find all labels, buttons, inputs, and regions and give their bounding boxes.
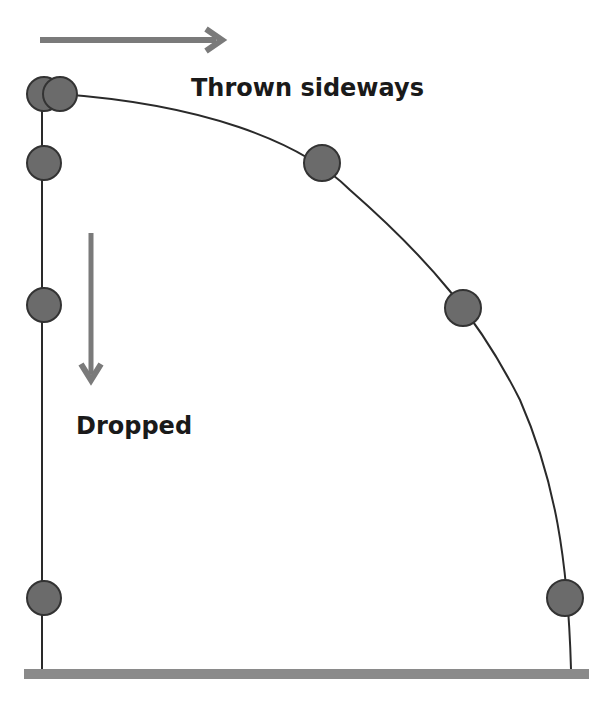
ground — [24, 669, 589, 679]
ball — [304, 145, 340, 181]
thrown-sideways-label: Thrown sideways — [191, 74, 424, 102]
dropped-label: Dropped — [76, 412, 192, 440]
ball — [27, 146, 61, 180]
ball — [43, 77, 77, 111]
diagram-canvas: Thrown sideways Dropped — [0, 0, 605, 701]
dropped-balls — [27, 77, 61, 615]
sideways-arrow-icon — [40, 29, 222, 51]
ball — [27, 288, 61, 322]
ball — [27, 581, 61, 615]
downward-arrow-icon — [81, 233, 101, 380]
ball — [445, 290, 481, 326]
thrown-balls — [43, 77, 583, 616]
ball — [547, 580, 583, 616]
